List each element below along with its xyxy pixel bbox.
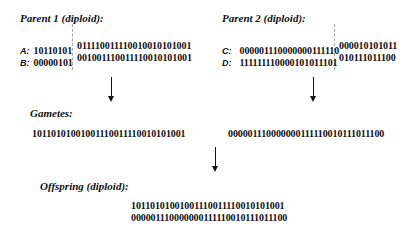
chromosome-d-right: 010111011100 xyxy=(339,52,396,63)
gametes-title: Gametes: xyxy=(30,107,73,119)
arrow-down-icon xyxy=(111,77,112,97)
gamete-2: 000001110000000111110010111011100 xyxy=(228,128,384,139)
chromosome-label: B: xyxy=(20,58,30,68)
gamete-1: 10110101001001110011110010101001 xyxy=(32,128,186,139)
chromosome-a-right: 011110011110010010101001 xyxy=(77,40,191,51)
parent2-title: Parent 2 (diploid): xyxy=(222,12,306,24)
chromosome-left: 111111110000101011101 xyxy=(240,57,338,68)
chromosome-b: B: 00000101 xyxy=(20,52,73,70)
offspring-chromosome-1: 10110101001001110011110010101001 xyxy=(131,200,285,211)
chromosome-left: 00000101 xyxy=(34,57,73,68)
offspring-chromosome-2: 000001110000000111110010111011100 xyxy=(131,212,287,223)
arrow-down-icon xyxy=(215,147,216,167)
chromosome-b-right: 001001110011110010101001 xyxy=(77,52,192,63)
chromosome-label: D: xyxy=(222,58,232,68)
parent1-title: Parent 1 (diploid): xyxy=(20,12,104,24)
chromosome-c-right: 000010101011 xyxy=(339,40,397,51)
offspring-title: Offspring (diploid): xyxy=(40,180,129,192)
arrow-down-icon xyxy=(313,77,314,97)
chromosome-d: D: 111111110000101011101 xyxy=(222,52,337,70)
